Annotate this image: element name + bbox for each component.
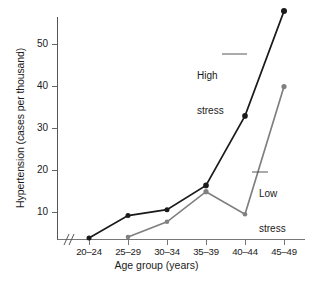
x-axis-title: Age group (years) (0, 260, 313, 272)
y-axis-title: Hypertension (cases per thousand) (15, 33, 27, 223)
annotation-high-stress: High stress (197, 47, 224, 139)
x-tick-label-20-24: 20–24 (67, 247, 111, 258)
x-tick-label-35-39: 35–39 (184, 247, 228, 258)
x-tick-label-30-34: 30–34 (145, 247, 189, 258)
x-tick-label-25-29: 25–29 (106, 247, 150, 258)
y-tick-marks (52, 45, 58, 213)
annotation-low-stress-line1: Low (259, 188, 286, 200)
annotation-high-stress-line2: stress (197, 105, 224, 117)
annotation-low-stress: Low stress (259, 165, 286, 257)
x-tick-marks (90, 240, 285, 246)
chart-container: 10 20 30 40 50 20–24 25–29 30–34 35–39 4… (0, 0, 313, 288)
annotation-high-stress-line1: High (197, 70, 224, 82)
annotation-low-stress-line2: stress (259, 223, 286, 235)
series-line-high-stress (89, 11, 284, 238)
